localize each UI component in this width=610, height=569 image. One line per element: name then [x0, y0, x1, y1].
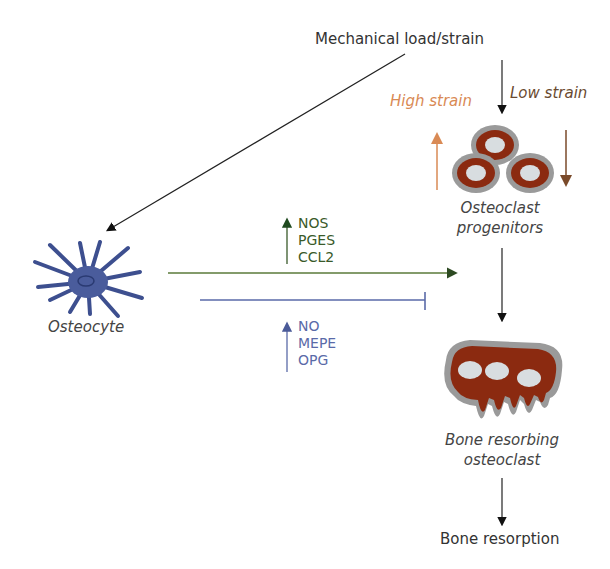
- progenitors-line1: Osteoclast: [440, 198, 560, 218]
- resorbing-line1: Bone resorbing: [432, 430, 572, 450]
- high-strain-label: High strain: [390, 92, 472, 110]
- osteocyte-icon: [35, 242, 142, 316]
- progenitors-line2: progenitors: [440, 218, 560, 238]
- osteoclast-progenitors-icon: [452, 125, 554, 193]
- resorbing-line2: osteoclast: [432, 450, 572, 470]
- upregulated-list: NOS PGES CCL2: [298, 215, 335, 266]
- pges-label: PGES: [298, 232, 335, 249]
- nos-label: NOS: [298, 215, 335, 232]
- ccl2-label: CCL2: [298, 249, 335, 266]
- bone-resorption-label: Bone resorption: [440, 530, 559, 548]
- osteoclast-progenitors-label: Osteoclast progenitors: [440, 198, 560, 238]
- load-to-osteocyte-arrow: [108, 54, 405, 230]
- low-strain-label: Low strain: [510, 84, 587, 102]
- mechanical-load-label: Mechanical load/strain: [315, 30, 484, 48]
- osteocyte-label: Osteocyte: [48, 318, 124, 336]
- bone-resorbing-osteoclast-icon: [444, 340, 562, 418]
- bone-resorbing-osteoclast-label: Bone resorbing osteoclast: [432, 430, 572, 470]
- no-label: NO: [298, 318, 336, 335]
- opg-label: OPG: [298, 352, 336, 369]
- downregulated-list: NO MEPE OPG: [298, 318, 336, 369]
- mepe-label: MEPE: [298, 335, 336, 352]
